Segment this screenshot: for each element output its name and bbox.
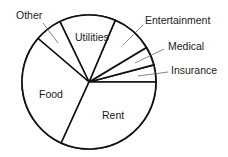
slice-label-food: Food (39, 88, 63, 100)
slice-label-rent: Rent (102, 109, 124, 121)
slice-label-entertainment: Entertainment (145, 14, 210, 26)
slice-label-utilities: Utilities (75, 31, 109, 43)
pie-chart: InsuranceMedicalEntertainmentUtilitiesOt… (0, 0, 228, 157)
slice-label-insurance: Insurance (171, 64, 217, 76)
slice-label-medical: Medical (168, 40, 204, 52)
slice-label-other: Other (16, 9, 43, 21)
